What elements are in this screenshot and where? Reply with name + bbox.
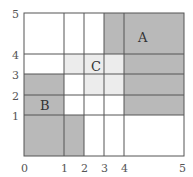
y-tick-2: 2 [12,90,19,103]
region-b-lower [24,115,84,156]
region-diagram: 0 1 2 3 4 5 5 4 3 2 1 A B C [0,0,193,177]
y-tick-1: 1 [12,110,19,123]
region-b-label: B [40,98,50,113]
x-tick-5: 5 [179,162,186,175]
region-c-label: C [91,59,101,74]
region-a-lower [124,54,184,115]
region-a-label: A [137,30,148,45]
y-tick-4: 4 [12,49,19,62]
x-tick-4: 4 [121,162,128,175]
x-tick-3: 3 [101,162,108,175]
y-tick-3: 3 [12,69,19,82]
x-tick-0: 0 [21,162,28,175]
x-tick-2: 2 [81,162,88,175]
x-tick-1: 1 [61,162,68,175]
y-tick-5: 5 [12,8,19,21]
